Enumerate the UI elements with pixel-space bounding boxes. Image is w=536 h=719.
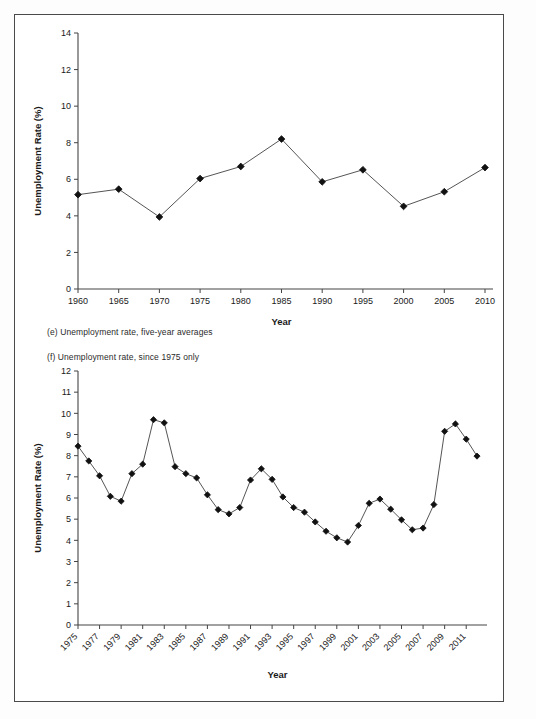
y-tick-label: 8 bbox=[66, 451, 71, 461]
y-tick-label: 5 bbox=[66, 514, 71, 524]
x-tick-label: 1985 bbox=[166, 631, 187, 652]
y-tick-label: 2 bbox=[66, 248, 71, 258]
data-point-marker bbox=[474, 453, 480, 459]
data-point-marker bbox=[344, 539, 350, 545]
x-tick-label: 1995 bbox=[353, 296, 373, 306]
y-tick-label: 6 bbox=[66, 174, 71, 184]
y-tick-label: 10 bbox=[61, 409, 71, 419]
x-tick-label: 1985 bbox=[271, 296, 291, 306]
x-tick-label: 1999 bbox=[317, 631, 338, 652]
x-tick-label: 1993 bbox=[252, 631, 273, 652]
data-point-marker bbox=[237, 163, 244, 170]
x-tick-label: 1983 bbox=[144, 631, 165, 652]
x-axis-title: Year bbox=[267, 669, 287, 680]
x-tick-label: 1987 bbox=[188, 631, 209, 652]
x-tick-label: 1997 bbox=[295, 631, 316, 652]
y-tick-label: 11 bbox=[62, 387, 71, 397]
x-tick-label: 2005 bbox=[434, 296, 454, 306]
y-tick-label: 4 bbox=[66, 211, 71, 221]
x-tick-label: 2009 bbox=[425, 631, 446, 652]
data-point-marker bbox=[194, 475, 200, 481]
y-tick-label: 0 bbox=[66, 620, 71, 630]
data-point-marker bbox=[115, 186, 122, 193]
data-point-marker bbox=[366, 500, 372, 506]
data-point-marker bbox=[431, 501, 437, 507]
y-tick-label: 0 bbox=[66, 284, 71, 294]
x-tick-label: 1990 bbox=[312, 296, 332, 306]
data-point-marker bbox=[452, 421, 458, 427]
y-tick-label: 9 bbox=[66, 430, 71, 440]
y-tick-label: 7 bbox=[66, 472, 71, 482]
x-tick-label: 1977 bbox=[80, 631, 101, 652]
x-tick-label: 1965 bbox=[109, 296, 129, 306]
data-point-marker bbox=[355, 522, 361, 528]
chart-e-plot: 0246810121419601965197019751980198519901… bbox=[15, 17, 505, 327]
y-tick-label: 2 bbox=[66, 578, 71, 588]
chart-e-container: 0246810121419601965197019751980198519901… bbox=[15, 17, 505, 357]
y-axis-title: Unemployment Rate (%) bbox=[32, 106, 43, 215]
x-tick-label: 1991 bbox=[231, 631, 252, 652]
data-point-marker bbox=[482, 164, 489, 171]
x-tick-label: 2003 bbox=[360, 631, 381, 652]
x-tick-label: 1979 bbox=[101, 631, 122, 652]
caption-f: (f) Unemployment rate, since 1975 only bbox=[47, 352, 199, 362]
y-tick-label: 3 bbox=[66, 557, 71, 567]
x-tick-label: 2007 bbox=[403, 631, 424, 652]
y-tick-label: 12 bbox=[61, 366, 71, 376]
y-tick-label: 1 bbox=[66, 599, 71, 609]
data-point-marker bbox=[463, 436, 469, 442]
data-line bbox=[78, 139, 485, 217]
x-tick-label: 1980 bbox=[231, 296, 251, 306]
figure-frame: 0246810121419601965197019751980198519901… bbox=[14, 14, 504, 702]
y-axis-title: Unemployment Rate (%) bbox=[32, 443, 43, 552]
x-axis-title: Year bbox=[271, 316, 291, 327]
caption-e: (e) Unemployment rate, five-year average… bbox=[47, 327, 213, 337]
x-tick-label: 1989 bbox=[209, 631, 230, 652]
x-tick-label: 1970 bbox=[149, 296, 169, 306]
x-tick-label: 1975 bbox=[190, 296, 210, 306]
data-point-marker bbox=[118, 498, 124, 504]
x-tick-label: 2005 bbox=[382, 631, 403, 652]
data-line bbox=[78, 420, 477, 542]
x-tick-label: 2000 bbox=[394, 296, 414, 306]
y-tick-label: 8 bbox=[66, 138, 71, 148]
y-tick-label: 6 bbox=[66, 493, 71, 503]
data-point-marker bbox=[226, 511, 232, 517]
data-point-marker bbox=[172, 464, 178, 470]
data-point-marker bbox=[75, 191, 82, 198]
data-point-marker bbox=[441, 188, 448, 195]
data-point-marker bbox=[237, 504, 243, 510]
x-tick-label: 2011 bbox=[447, 631, 468, 652]
page-root: 0246810121419601965197019751980198519901… bbox=[0, 0, 536, 719]
x-tick-label: 2001 bbox=[339, 631, 360, 652]
y-tick-label: 4 bbox=[66, 536, 71, 546]
data-point-marker bbox=[150, 417, 156, 423]
y-tick-label: 12 bbox=[61, 65, 71, 75]
x-tick-label: 1975 bbox=[58, 631, 79, 652]
data-point-marker bbox=[420, 525, 426, 531]
y-tick-label: 10 bbox=[61, 101, 71, 111]
chart-f-container: 0123456789101112197519771979198119831985… bbox=[15, 353, 505, 703]
data-point-marker bbox=[334, 535, 340, 541]
data-point-marker bbox=[161, 420, 167, 426]
x-tick-label: 2010 bbox=[475, 296, 495, 306]
data-point-marker bbox=[442, 428, 448, 434]
chart-f-plot: 0123456789101112197519771979198119831985… bbox=[15, 353, 505, 688]
y-tick-label: 14 bbox=[61, 28, 71, 38]
data-point-marker bbox=[107, 493, 113, 499]
x-tick-label: 1981 bbox=[123, 631, 144, 652]
x-tick-label: 1960 bbox=[68, 296, 88, 306]
x-tick-label: 1995 bbox=[274, 631, 295, 652]
data-point-marker bbox=[183, 471, 189, 477]
